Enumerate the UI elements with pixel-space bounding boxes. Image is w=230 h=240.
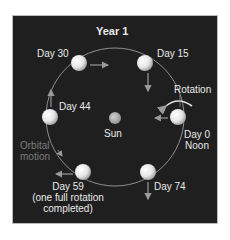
label-day-59-day: Day 59 — [18, 181, 118, 192]
label-orbital-motion: Orbital motion — [20, 140, 50, 162]
label-day-44: Day 44 — [59, 101, 91, 112]
label-sun: Sun — [104, 128, 122, 139]
label-day-59-note-1: (one full rotation — [18, 192, 118, 203]
label-day-15: Day 15 — [157, 48, 189, 59]
rotation-arrow-icon — [166, 101, 192, 106]
planet-day-30 — [71, 55, 87, 71]
label-day-0-day: Day 0 — [182, 129, 212, 140]
planet-day-15 — [137, 55, 153, 71]
planet-day-74 — [140, 164, 156, 180]
planet-day-59 — [75, 164, 91, 180]
label-day-0: Day 0 Noon — [182, 129, 212, 151]
label-day-0-noon: Noon — [182, 140, 212, 151]
sun-icon — [109, 112, 121, 124]
label-day-74: Day 74 — [154, 181, 186, 192]
label-rotation: Rotation — [174, 84, 211, 95]
diagram-title: Year 1 — [96, 26, 128, 37]
label-day-59-note-2: completed) — [18, 203, 118, 214]
planet-day-0 — [170, 109, 186, 125]
label-motion: motion — [20, 151, 50, 162]
planet-day-44 — [42, 109, 58, 125]
orbital-motion-arrow — [58, 150, 62, 156]
label-orbital: Orbital — [20, 140, 50, 151]
label-day-30: Day 30 — [37, 48, 69, 59]
label-day-59: Day 59 (one full rotation completed) — [18, 181, 118, 214]
